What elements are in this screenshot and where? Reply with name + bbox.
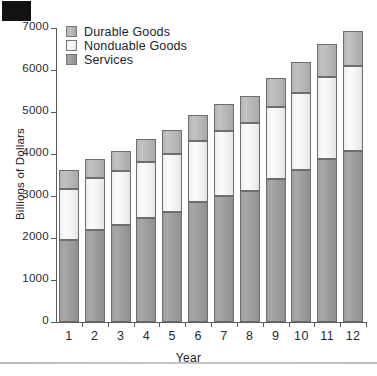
legend-swatch-icon [66,40,77,51]
bar-segment-durable-goods [136,139,156,162]
bar-stack [240,28,260,322]
x-tick-label: 11 [320,329,334,343]
y-tick [51,322,56,323]
bar-segment-durable-goods [59,170,79,189]
bar-segment-nondurable-goods [85,178,105,230]
x-tick [314,322,315,327]
legend-swatch-icon [66,26,77,37]
bar-segment-nondurable-goods [317,77,337,159]
bar-segment-services [85,230,105,322]
x-tick [289,322,290,327]
x-tick [108,322,109,327]
bar-segment-durable-goods [162,130,182,154]
legend-swatch-icon [66,54,77,65]
x-tick [237,322,238,327]
bar-segment-nondurable-goods [291,93,311,170]
bar-segment-services [214,196,234,322]
y-tick-label: 0 [42,314,49,326]
bar-segment-durable-goods [85,159,105,178]
bar-segment-services [136,218,156,322]
bar-segment-nondurable-goods [214,131,234,195]
bar-segment-durable-goods [317,44,337,77]
bar-stack [291,28,311,322]
y-tick-label: 4000 [22,146,49,158]
x-tick [159,322,160,327]
chart-legend: Durable GoodsNonduable GoodsServices [66,25,187,66]
chart-page: Billions of Dollars Year 010002000300040… [0,0,377,376]
bar-segment-durable-goods [214,104,234,131]
bar-segment-services [162,212,182,322]
x-axis-title: Year [0,351,377,365]
x-tick [366,322,367,327]
bar-stack [136,28,156,322]
x-tick-label: 12 [346,329,361,343]
x-tick-label: 5 [169,329,176,343]
x-tick [340,322,341,327]
bar-stack [162,28,182,322]
y-tick-label: 1000 [22,272,49,284]
bar-segment-durable-goods [291,62,311,93]
y-tick [51,154,56,155]
bar-segment-nondurable-goods [59,189,79,240]
bar-stack [266,28,286,322]
y-tick [51,112,56,113]
plot-area: 01000200030004000500060007000 1234567891… [56,28,366,322]
bar-segment-nondurable-goods [343,66,363,151]
bar-segment-services [343,151,363,322]
bar-segment-durable-goods [343,31,363,66]
x-tick-label: 7 [220,329,227,343]
scan-corner-mark [2,1,31,21]
bar-segment-nondurable-goods [111,171,131,225]
x-tick [82,322,83,327]
y-tick [51,280,56,281]
bar-stack [188,28,208,322]
x-tick-label: 9 [272,329,279,343]
bar-stack [111,28,131,322]
x-tick-label: 8 [246,329,253,343]
bar-segment-durable-goods [240,96,260,124]
bar-stack [317,28,337,322]
bar-stack [214,28,234,322]
x-tick-label: 10 [294,329,309,343]
bar-segment-services [111,225,131,322]
y-axis-line [56,28,57,323]
bar-segment-durable-goods [111,151,131,171]
bar-segment-services [291,170,311,322]
y-tick-label: 3000 [22,188,49,200]
y-tick [51,196,56,197]
legend-label: Durable Goods [84,25,170,39]
y-axis-title: Billions of Dollars [14,128,26,220]
bar-segment-services [59,240,79,322]
y-tick-label: 7000 [22,20,49,32]
y-tick [51,70,56,71]
x-tick [134,322,135,327]
x-tick [185,322,186,327]
bar-segment-nondurable-goods [136,162,156,218]
bar-segment-services [188,202,208,322]
bar-segment-durable-goods [188,115,208,141]
bar-segment-services [266,179,286,322]
legend-label: Nonduable Goods [84,39,187,53]
y-tick-label: 5000 [22,104,49,116]
legend-item: Durable Goods [66,25,187,38]
x-tick-label: 6 [194,329,201,343]
bar-segment-nondurable-goods [162,154,182,212]
y-tick-label: 2000 [22,230,49,242]
y-tick-label: 6000 [22,62,49,74]
bar-segment-nondurable-goods [240,123,260,191]
bar-stack [343,28,363,322]
y-tick [51,238,56,239]
legend-item: Nonduable Goods [66,39,187,52]
y-tick [51,28,56,29]
x-tick-label: 3 [117,329,124,343]
x-tick [211,322,212,327]
x-tick-label: 4 [143,329,150,343]
bar-segment-services [317,159,337,322]
legend-item: Services [66,53,187,66]
bar-segment-nondurable-goods [266,107,286,179]
x-tick-label: 1 [65,329,72,343]
bar-segment-durable-goods [266,78,286,107]
bar-stack [85,28,105,322]
bar-stack [59,28,79,322]
bar-segment-services [240,191,260,322]
